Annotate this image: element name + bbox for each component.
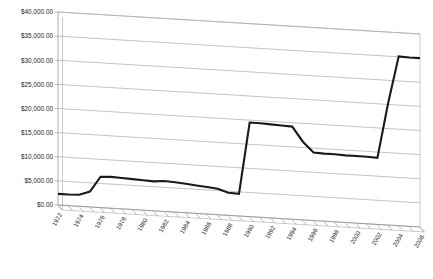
x-axis-tick xyxy=(292,220,296,225)
y-axis-tick-label: $25,000.00 xyxy=(21,81,53,88)
x-axis-tick-label: 1994 xyxy=(285,225,298,241)
x-axis-tick xyxy=(388,226,392,231)
x-axis-tick-label: 1988 xyxy=(221,221,234,237)
x-axis-tick-label: 1996 xyxy=(306,227,319,243)
y-axis-tick-label: $20,000.00 xyxy=(21,105,53,112)
x-axis-tick xyxy=(101,208,105,213)
x-axis-tick xyxy=(356,224,360,229)
y-axis-tick-label: $35,000.00 xyxy=(21,32,53,39)
x-axis-tick-label: 2004 xyxy=(391,232,404,248)
x-axis-tick-label: 1980 xyxy=(136,216,149,232)
y-axis-tick-label: $10,000.00 xyxy=(21,153,53,160)
x-axis-tick xyxy=(409,227,413,232)
x-axis-tick xyxy=(154,211,158,216)
y-axis-tick-label: $30,000.00 xyxy=(21,57,53,64)
x-axis-tick xyxy=(314,221,318,226)
x-axis-tick-label: 1976 xyxy=(93,214,106,230)
gridline xyxy=(58,36,420,58)
x-axis-tick-label: 1974 xyxy=(72,212,85,228)
x-axis-tick xyxy=(303,220,307,225)
x-axis-tick xyxy=(335,222,339,227)
x-axis-tick xyxy=(69,206,73,211)
chart-container: $0.00$5,000.00$10,000.00$15,000.00$20,00… xyxy=(0,0,433,279)
x-axis-tick-label: 1998 xyxy=(327,228,340,244)
gridline xyxy=(58,60,420,82)
y-axis-tick-label: $5,000.00 xyxy=(25,177,54,184)
x-axis-tick xyxy=(133,210,137,215)
x-axis-tick xyxy=(345,223,349,228)
x-axis-tick-labels: 1972197419761978198019821984198619881990… xyxy=(50,211,425,249)
x-axis-ticks xyxy=(58,206,424,233)
x-axis-tick-label: 1984 xyxy=(178,219,191,235)
gridline xyxy=(58,84,420,106)
x-axis-tick xyxy=(377,225,381,230)
x-axis-tick xyxy=(282,219,286,224)
axis-lines xyxy=(58,12,425,232)
x-axis-tick xyxy=(420,228,424,233)
x-axis-tick-label: 1986 xyxy=(199,220,212,236)
x-axis-tick xyxy=(58,206,62,211)
x-axis-tick xyxy=(143,211,147,216)
gridline xyxy=(58,133,420,155)
x-axis-tick xyxy=(79,207,83,212)
plot-top-edge xyxy=(58,12,420,34)
y-axis-tick-label: $40,000.00 xyxy=(21,8,53,15)
plot-floor-right-edge xyxy=(420,227,425,232)
x-axis-tick xyxy=(196,214,200,219)
x-axis-tick xyxy=(111,209,115,214)
gridline xyxy=(58,109,420,131)
x-axis-tick xyxy=(164,212,168,217)
x-axis-tick xyxy=(239,217,243,222)
x-axis-tick xyxy=(399,226,403,231)
x-axis-tick xyxy=(207,215,211,220)
x-axis-tick-label: 1978 xyxy=(114,215,127,231)
x-axis-tick xyxy=(271,218,275,223)
data-series xyxy=(58,56,420,194)
x-axis-tick xyxy=(260,218,264,223)
x-axis-tick xyxy=(324,222,328,227)
y-axis-tick-label: $15,000.00 xyxy=(21,129,53,136)
x-axis-tick-label: 1990 xyxy=(242,223,255,239)
x-axis-line xyxy=(58,205,420,227)
x-axis-tick xyxy=(218,215,222,220)
x-axis-tick-label: 2000 xyxy=(349,229,362,245)
x-axis-tick-label: 1972 xyxy=(50,211,63,227)
line-chart: $0.00$5,000.00$10,000.00$15,000.00$20,00… xyxy=(0,0,433,279)
x-axis-tick xyxy=(90,207,94,212)
x-axis-tick xyxy=(186,213,190,218)
y-axis-tick-labels: $0.00$5,000.00$10,000.00$15,000.00$20,00… xyxy=(21,8,58,208)
x-axis-tick-label: 2002 xyxy=(370,230,383,246)
x-axis-tick xyxy=(367,224,371,229)
x-axis-tick-label: 1992 xyxy=(263,224,276,240)
y-axis-tick-label: $0.00 xyxy=(37,201,53,208)
x-axis-tick xyxy=(250,217,254,222)
plot-floor-left-edge xyxy=(58,205,63,210)
x-axis-tick-label: 2006 xyxy=(412,233,425,249)
gridline xyxy=(58,157,420,179)
x-axis-tick xyxy=(122,209,126,214)
x-axis-tick xyxy=(228,216,232,221)
x-axis-tick xyxy=(175,213,179,218)
x-axis-tick-label: 1982 xyxy=(157,217,170,233)
series-line xyxy=(58,56,420,194)
